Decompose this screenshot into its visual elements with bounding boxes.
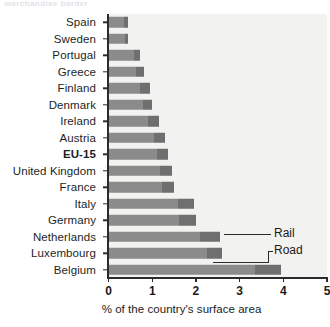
stacked-bar bbox=[109, 133, 166, 144]
y-axis-tick bbox=[103, 269, 108, 270]
stacked-bar bbox=[109, 34, 129, 45]
category-label: Luxembourg bbox=[31, 247, 96, 259]
bar-segment-road bbox=[109, 149, 157, 160]
y-axis-tick bbox=[103, 137, 108, 138]
bar-segment-rail bbox=[136, 67, 144, 78]
y-axis-tick bbox=[103, 38, 108, 39]
annotation-leader-rail bbox=[224, 234, 271, 235]
y-axis-tick bbox=[103, 203, 108, 204]
bar-row: Sweden bbox=[0, 31, 329, 48]
bar-segment-road bbox=[109, 50, 134, 61]
stacked-bar bbox=[109, 100, 153, 111]
category-label: United Kingdom bbox=[13, 165, 96, 177]
category-label: Germany bbox=[48, 214, 96, 226]
bar-segment-road bbox=[109, 215, 180, 226]
x-axis-tick bbox=[152, 277, 153, 282]
bar-segment-rail bbox=[124, 17, 128, 28]
bar-segment-rail bbox=[255, 265, 281, 276]
stacked-bar bbox=[109, 248, 223, 259]
annotation-leader-road-base bbox=[213, 262, 269, 263]
category-label: Austria bbox=[60, 132, 97, 144]
bar-row: Finland bbox=[0, 80, 329, 97]
stacked-bar bbox=[109, 50, 140, 61]
category-label: Portugal bbox=[52, 49, 96, 61]
bar-row: United Kingdom bbox=[0, 163, 329, 180]
bar-row: Portugal bbox=[0, 47, 329, 64]
annotation-label-rail: Rail bbox=[274, 226, 295, 240]
category-label: Denmark bbox=[49, 99, 96, 111]
bar-segment-road bbox=[109, 133, 155, 144]
bar-segment-rail bbox=[148, 116, 159, 127]
bar-row: Italy bbox=[0, 196, 329, 213]
bar-segment-rail bbox=[162, 182, 174, 193]
bar-segment-road bbox=[109, 34, 126, 45]
y-axis-tick bbox=[103, 253, 108, 254]
stacked-bar bbox=[109, 265, 282, 276]
bar-segment-rail bbox=[207, 248, 222, 259]
bar-row: Denmark bbox=[0, 97, 329, 114]
category-label: Spain bbox=[66, 16, 96, 28]
bar-segment-road bbox=[109, 265, 255, 276]
bar-segment-rail bbox=[125, 34, 128, 45]
x-axis-tick-label: 0 bbox=[105, 284, 112, 298]
y-axis-tick bbox=[103, 121, 108, 122]
bar-segment-road bbox=[109, 100, 143, 111]
x-axis-tick-label: 2 bbox=[193, 284, 200, 298]
x-axis-tick-label: 1 bbox=[149, 284, 156, 298]
bar-row: Belgium bbox=[0, 262, 329, 279]
stacked-bar bbox=[109, 149, 169, 160]
bar-segment-road bbox=[109, 166, 161, 177]
stacked-bar bbox=[109, 215, 196, 226]
bar-row: Spain bbox=[0, 14, 329, 31]
stacked-bar bbox=[109, 17, 129, 28]
category-label: Belgium bbox=[54, 264, 96, 276]
stacked-bar bbox=[109, 67, 144, 78]
bar-segment-road bbox=[109, 83, 140, 94]
bar-segment-rail bbox=[179, 215, 196, 226]
category-label: France bbox=[60, 181, 96, 193]
x-axis-tick-label: 4 bbox=[280, 284, 287, 298]
bar-segment-rail bbox=[200, 232, 220, 243]
bar-row: France bbox=[0, 179, 329, 196]
x-axis-tick-label: 5 bbox=[324, 284, 330, 298]
y-axis-tick bbox=[103, 220, 108, 221]
bar-segment-rail bbox=[134, 50, 140, 61]
stacked-bar bbox=[109, 232, 220, 243]
bar-segment-road bbox=[109, 116, 148, 127]
x-axis-tick bbox=[283, 277, 284, 282]
y-axis-tick bbox=[103, 104, 108, 105]
cropped-header-fragment: merchandise border bbox=[4, 0, 88, 8]
y-axis-tick bbox=[103, 22, 108, 23]
x-axis-title: % of the country's surface area bbox=[0, 303, 329, 315]
category-label: Finland bbox=[58, 82, 96, 94]
category-label: Ireland bbox=[60, 115, 96, 127]
stacked-bar bbox=[109, 166, 172, 177]
bar-segment-rail bbox=[154, 133, 165, 144]
category-label: Netherlands bbox=[33, 231, 96, 243]
annotation-leader-road-h bbox=[269, 251, 273, 252]
bar-segment-rail bbox=[143, 100, 153, 111]
stacked-bar bbox=[109, 116, 159, 127]
category-label: EU-15 bbox=[63, 148, 96, 160]
stacked-bar bbox=[109, 199, 194, 210]
category-label: Italy bbox=[74, 198, 96, 210]
y-axis-tick bbox=[103, 55, 108, 56]
bar-segment-rail bbox=[157, 149, 169, 160]
y-axis-tick bbox=[103, 236, 108, 237]
y-axis-tick bbox=[103, 88, 108, 89]
bar-row: Austria bbox=[0, 130, 329, 147]
bar-segment-road bbox=[109, 232, 201, 243]
bar-row: EU-15 bbox=[0, 146, 329, 163]
y-axis-tick bbox=[103, 154, 108, 155]
category-label: Greece bbox=[58, 66, 96, 78]
bar-segment-road bbox=[109, 17, 125, 28]
category-label: Sweden bbox=[54, 33, 96, 45]
y-axis-tick bbox=[103, 71, 108, 72]
y-axis-tick bbox=[103, 187, 108, 188]
x-axis-tick bbox=[326, 277, 327, 282]
x-axis-tick-label: 3 bbox=[236, 284, 243, 298]
y-axis-tick bbox=[103, 170, 108, 171]
x-axis-tick bbox=[108, 277, 109, 282]
bar-segment-rail bbox=[178, 199, 193, 210]
